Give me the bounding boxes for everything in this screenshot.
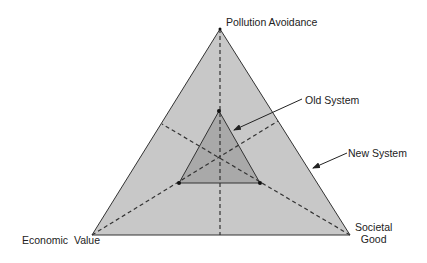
inner-vertex-right — [258, 181, 262, 185]
label-pollution-avoidance: Pollution Avoidance — [226, 16, 317, 28]
inner-vertex-left — [177, 181, 181, 185]
label-new-system: New System — [348, 147, 407, 159]
label-societal-good: Societal Good — [355, 221, 392, 245]
label-old-system: Old System — [305, 94, 359, 106]
new-system-arrow — [313, 153, 347, 168]
label-societal-line1: Societal — [355, 221, 392, 233]
inner-vertex-top — [217, 109, 221, 113]
label-economic-line1: Economic Value — [22, 234, 118, 246]
label-societal-line2: Good — [355, 233, 392, 245]
outer-vertex-top — [219, 28, 222, 31]
label-economic-value: Economic Value added (through technology… — [22, 210, 118, 263]
